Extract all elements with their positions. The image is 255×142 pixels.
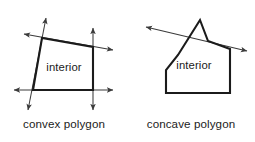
concave-interior-label: interior: [176, 59, 211, 71]
concave-caption: concave polygon: [147, 117, 236, 130]
polygon-comparison-figure: interior convex polygon interior concave…: [0, 0, 255, 142]
convex-interior-label: interior: [46, 61, 81, 73]
convex-caption: convex polygon: [23, 117, 105, 130]
figure-canvas: interior convex polygon interior concave…: [0, 0, 255, 142]
